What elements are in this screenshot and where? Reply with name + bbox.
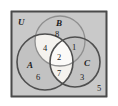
region-count-a-only: 6 [36,72,40,82]
region-count-c-only: 3 [80,72,84,82]
region-count-a-and-b-and-c: 2 [57,52,61,62]
set-label-C: C [84,58,91,68]
region-count-b-only: 8 [55,29,59,39]
region-count-b-and-c: 1 [72,42,76,52]
universe-label: U [18,17,25,27]
region-count-outside: 5 [97,83,101,93]
set-label-A: A [26,60,33,70]
venn-diagram-figure: U B A C 8 4 1 2 7 6 3 5 [0,0,118,106]
venn-diagram-canvas: U B A C 8 4 1 2 7 6 3 5 [0,0,118,106]
set-label-B: B [55,18,62,28]
region-count-a-and-c: 7 [57,68,61,78]
